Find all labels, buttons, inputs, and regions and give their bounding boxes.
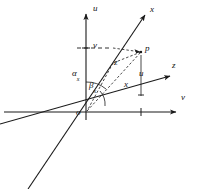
origin-label: o xyxy=(76,108,81,117)
axis-line-z xyxy=(0,76,170,124)
point-label-p: p xyxy=(145,44,150,53)
figure-canvas: u x z v v p z u x αx βx o xyxy=(0,0,199,189)
component-label-z: z xyxy=(114,58,118,67)
angle-label-beta: βx xyxy=(89,81,96,92)
guide-label-v: v xyxy=(93,41,97,50)
axis-label-x: x xyxy=(150,5,154,14)
angle-beta-subscript: x xyxy=(93,88,96,94)
point-p-marker xyxy=(140,51,142,53)
component-label-u: u xyxy=(139,69,144,78)
angle-arc-beta xyxy=(100,91,105,106)
angle-label-alpha: αx xyxy=(72,69,79,80)
axis-label-u: u xyxy=(93,4,98,13)
coordinate-diagram xyxy=(0,0,199,189)
axis-label-v: v xyxy=(181,93,185,102)
component-label-x: x xyxy=(124,80,128,89)
axis-label-z: z xyxy=(172,61,176,70)
